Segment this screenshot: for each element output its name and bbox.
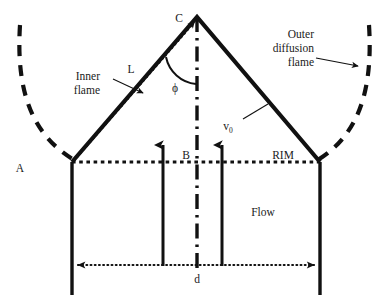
label-inner-flame-line1: Inner <box>76 70 100 82</box>
outer-diffusion-flame-left-curve <box>19 25 76 161</box>
label-outer-flame-line3: flame <box>288 56 314 68</box>
label-diameter: d <box>194 273 200 285</box>
angle-arc-phi <box>166 57 196 84</box>
label-point-c: C <box>175 12 183 24</box>
flame-structure-diagram: C A B L ϕ v0 RIM Flow d Inner flame Oute… <box>0 0 386 302</box>
label-flow: Flow <box>251 206 275 218</box>
label-length-l: L <box>127 63 134 75</box>
label-inner-flame-line2: flame <box>74 84 100 96</box>
outer-diffusion-flame-right-curve <box>316 25 370 161</box>
diagram-canvas: C A B L ϕ v0 RIM Flow d Inner flame Oute… <box>0 0 386 302</box>
outer-flame-leader <box>316 58 358 66</box>
label-point-b: B <box>182 149 190 161</box>
label-outer-flame-line2: diffusion <box>273 42 315 54</box>
label-outer-flame-line1: Outer <box>288 28 314 40</box>
velocity-leader <box>243 104 268 119</box>
label-rim: RIM <box>272 149 294 161</box>
label-velocity: v0 <box>223 120 233 135</box>
velocity-subscript: 0 <box>229 126 233 135</box>
label-point-a: A <box>16 162 25 174</box>
label-angle-phi: ϕ <box>172 82 178 95</box>
